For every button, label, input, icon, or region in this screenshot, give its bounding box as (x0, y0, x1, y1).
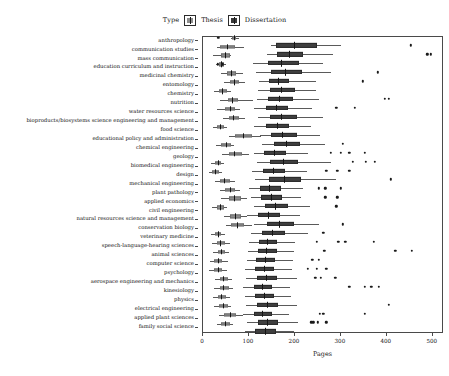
y-axis-tick (195, 58, 198, 59)
y-axis-tick (195, 67, 198, 68)
outlier-point (334, 277, 336, 279)
y-axis-label: animal sciences (151, 252, 194, 257)
box-iqr (267, 222, 294, 226)
median-line (218, 267, 219, 272)
y-axis-label: communication studies (132, 47, 194, 52)
y-axis-tick (195, 85, 198, 86)
median-line (285, 69, 286, 75)
median-line (277, 123, 278, 129)
y-axis-label: conservation biology (138, 225, 194, 230)
y-axis-tick (195, 40, 198, 41)
median-line (266, 275, 267, 281)
outlier-point (325, 169, 327, 171)
median-line (262, 284, 263, 290)
outlier-point (387, 98, 389, 100)
outlier-point (352, 160, 354, 162)
median-line (234, 151, 235, 156)
median-line (227, 44, 228, 49)
median-line (262, 310, 263, 316)
median-line (223, 303, 224, 308)
chart-root: Type Thesis Dissertation anthropologycom… (0, 0, 449, 376)
box-iqr (274, 142, 301, 146)
median-line (226, 142, 227, 147)
y-axis-tick (195, 130, 198, 131)
outlier-point (410, 44, 412, 46)
median-line (218, 258, 219, 263)
x-axis-title: Pages (202, 350, 443, 358)
outlier-point (322, 232, 324, 234)
median-line (273, 167, 274, 173)
outlier-point (340, 187, 342, 189)
median-line (266, 248, 267, 254)
box-iqr (271, 133, 297, 137)
outlier-point (387, 303, 389, 305)
boxplot-series-layer (203, 37, 442, 332)
y-axis-label: veterinary medicine (140, 234, 194, 239)
outlier-point (377, 286, 379, 288)
y-axis-labels: anthropologycommunication studiesmass co… (0, 36, 198, 333)
y-axis-tick (195, 49, 198, 50)
thesis-swatch-icon (184, 15, 196, 26)
x-axis-tick (294, 333, 295, 336)
y-axis-label: kinesiology (164, 288, 194, 293)
median-line (243, 133, 244, 138)
outlier-point (311, 259, 313, 261)
median-line (281, 87, 282, 93)
y-axis-tick (195, 121, 198, 122)
outlier-point (317, 321, 319, 323)
y-axis-label: plant pathology (152, 190, 194, 195)
outlier-point (330, 151, 332, 153)
box-iqr (270, 115, 297, 119)
median-line (225, 321, 226, 326)
y-axis-label: aerospace engineering and mechanics (91, 279, 194, 284)
outlier-point (316, 268, 318, 270)
median-line (271, 194, 272, 200)
median-line (225, 53, 226, 58)
outlier-point (364, 151, 366, 153)
y-axis-label: geology (173, 154, 194, 159)
outlier-point (374, 160, 376, 162)
median-line (281, 114, 282, 120)
outlier-point (430, 53, 432, 55)
y-axis-tick (195, 273, 198, 274)
median-line (237, 223, 238, 228)
outlier-point (324, 196, 326, 198)
outlier-point (319, 277, 321, 279)
median-line (282, 132, 283, 138)
median-line (215, 169, 216, 174)
box-iqr (265, 204, 288, 208)
outlier-point (337, 241, 339, 243)
median-line (267, 301, 268, 307)
y-axis-label: family social science (139, 324, 194, 329)
median-line (274, 149, 275, 155)
outlier-point (340, 151, 342, 153)
median-line (283, 158, 284, 164)
y-axis-tick (195, 166, 198, 167)
median-line (268, 212, 269, 218)
outlier-point (342, 143, 344, 145)
median-line (230, 106, 231, 111)
y-axis-tick (195, 103, 198, 104)
outlier-point (325, 268, 327, 270)
outlier-point (335, 205, 337, 207)
median-line (222, 88, 223, 93)
y-axis-tick (195, 264, 198, 265)
median-line (264, 292, 265, 298)
y-axis-label: psychology (164, 270, 194, 275)
median-line (234, 35, 235, 40)
median-line (265, 257, 266, 263)
median-line (230, 312, 231, 317)
x-axis-tick-label: 100 (243, 338, 254, 344)
outlier-point (342, 223, 344, 225)
y-axis-tick (195, 94, 198, 95)
y-axis-label: entomology (163, 82, 194, 87)
outlier-point (410, 250, 412, 252)
box-iqr (266, 124, 289, 128)
outlier-point (348, 151, 350, 153)
y-axis-label: anthropology (158, 38, 194, 43)
x-axis-tick-label: 0 (200, 338, 204, 344)
outlier-point (376, 71, 378, 73)
y-axis-tick (195, 148, 198, 149)
legend-label-dissertation: Dissertation (245, 16, 286, 24)
y-axis-label: civil engineering (149, 208, 194, 213)
